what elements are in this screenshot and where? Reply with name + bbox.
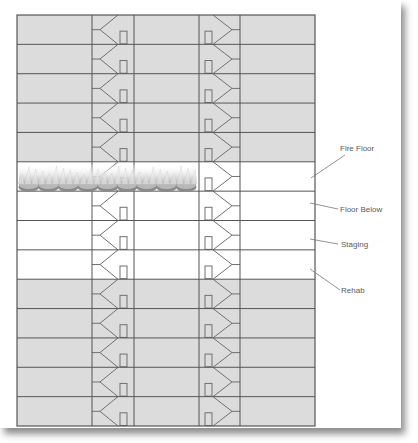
leader-line	[311, 155, 345, 178]
floor-staging	[17, 221, 315, 250]
floor-lower	[17, 397, 315, 426]
floor-upper	[17, 15, 315, 44]
floor-labels: Fire FloorFloor BelowStagingRehab	[310, 144, 382, 295]
label-rehab: Rehab	[341, 286, 365, 295]
page-card: Fire FloorFloor BelowStagingRehab	[0, 0, 401, 428]
floor-upper	[17, 74, 315, 103]
label-staging: Staging	[341, 240, 368, 249]
floor-lower	[17, 338, 315, 367]
floor-lower	[17, 367, 315, 396]
building-cross-section-diagram: Fire FloorFloor BelowStagingRehab	[0, 0, 418, 443]
floor-upper	[17, 103, 315, 132]
label-floor-below: Floor Below	[340, 205, 382, 214]
label-fire-floor: Fire Floor	[340, 144, 375, 153]
flames-icon	[18, 165, 197, 192]
floor-floor-below	[17, 191, 315, 220]
floor-lower	[17, 279, 315, 308]
floor-lower	[17, 309, 315, 338]
floor-upper	[17, 132, 315, 161]
floor-upper	[17, 44, 315, 73]
floor-rehab	[17, 250, 315, 279]
